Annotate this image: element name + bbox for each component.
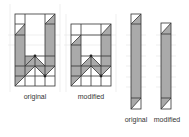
label-u-original: original [10,93,60,101]
u-shape-original [15,14,55,86]
label-u-modified: modified [66,93,116,101]
u-shape-modified [71,24,111,86]
bar-shape-original [131,14,141,109]
bar-shape-modified [161,23,171,109]
label-bar-modified: modified [142,116,189,124]
background-grid [8,4,176,92]
